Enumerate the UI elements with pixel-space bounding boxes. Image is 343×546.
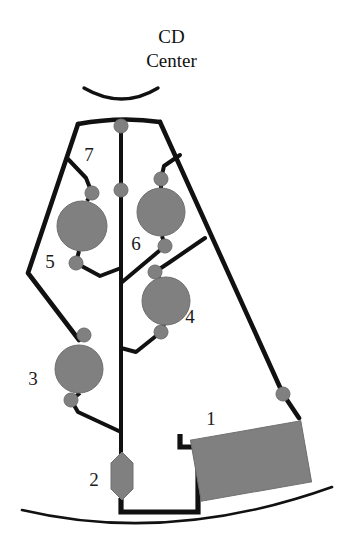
node-5-circle[interactable] bbox=[57, 201, 107, 251]
connector-dot-node4-bottom bbox=[154, 325, 168, 339]
node-1-rectangle[interactable] bbox=[190, 421, 311, 502]
connector-dot-node4-top bbox=[148, 265, 162, 279]
connector-dot-node6-top bbox=[154, 172, 168, 186]
label-node-6: 6 bbox=[131, 233, 141, 254]
connector-dot-apex bbox=[114, 119, 128, 133]
connector-dot-trunk-upper bbox=[114, 183, 128, 197]
connector-dot-node3-bottom bbox=[64, 393, 78, 407]
right-boundary-line bbox=[160, 122, 299, 418]
connector-dot-node3-top bbox=[77, 328, 91, 342]
diagram-canvas: CD Center bbox=[0, 0, 343, 546]
top-arc bbox=[84, 88, 158, 99]
label-node-3: 3 bbox=[28, 368, 38, 389]
connector-dot-node6-bottom bbox=[158, 239, 172, 253]
label-node-2: 2 bbox=[89, 469, 99, 490]
label-node-7: 7 bbox=[84, 144, 94, 165]
node-3-circle[interactable] bbox=[55, 345, 103, 393]
node-4-circle[interactable] bbox=[142, 277, 190, 325]
link-node3-to-trunk bbox=[71, 400, 121, 432]
connector-dot-node5-bottom bbox=[69, 256, 83, 270]
node-6-circle[interactable] bbox=[137, 188, 185, 236]
connector-dot-node1-feed bbox=[276, 387, 290, 401]
label-node-1: 1 bbox=[206, 408, 216, 429]
bottom-arc bbox=[22, 487, 332, 523]
label-node-5: 5 bbox=[45, 251, 55, 272]
connector-dot-node5-top bbox=[85, 186, 99, 200]
network-schematic: 1 2 3 4 5 6 7 bbox=[0, 0, 343, 546]
label-node-4: 4 bbox=[185, 306, 195, 327]
node-2-hexagon[interactable] bbox=[111, 452, 133, 500]
